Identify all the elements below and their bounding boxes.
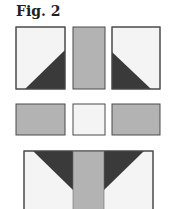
half-square-triangle-left xyxy=(16,27,65,89)
gray-rectangle-vertical xyxy=(73,27,105,89)
quilt-block-diagram xyxy=(0,0,170,209)
white-square-center xyxy=(73,104,105,135)
middle-row xyxy=(16,104,160,135)
assembled-unit xyxy=(24,151,153,209)
gray-rectangle-left xyxy=(16,104,65,135)
gray-rectangle-right xyxy=(112,104,160,135)
half-square-triangle-right xyxy=(112,27,160,89)
top-row xyxy=(16,27,160,89)
